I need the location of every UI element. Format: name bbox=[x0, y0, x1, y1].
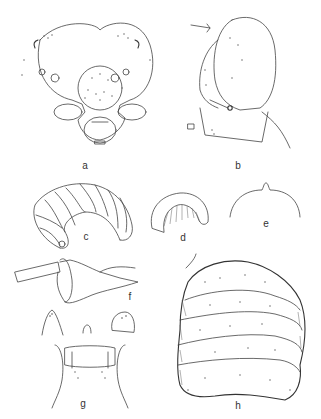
figure-b-drawing bbox=[188, 17, 290, 148]
figure-d-drawing bbox=[151, 193, 208, 232]
figure-a-drawing bbox=[21, 23, 152, 144]
figure-g-drawing bbox=[42, 310, 135, 408]
figure-f-drawing bbox=[15, 259, 138, 303]
illustration-plate: a b c d e f g h bbox=[0, 0, 321, 419]
plate-drawings bbox=[0, 0, 321, 419]
figure-label-b: b bbox=[232, 160, 244, 171]
figure-label-h: h bbox=[232, 400, 244, 411]
figure-label-a: a bbox=[79, 160, 91, 171]
figure-label-f: f bbox=[124, 291, 136, 302]
figure-label-e: e bbox=[260, 218, 272, 229]
figure-e-drawing bbox=[230, 183, 300, 217]
figure-h-drawing bbox=[178, 254, 305, 400]
figure-label-c: c bbox=[80, 231, 92, 242]
figure-label-d: d bbox=[177, 232, 189, 243]
figure-label-g: g bbox=[77, 398, 89, 409]
